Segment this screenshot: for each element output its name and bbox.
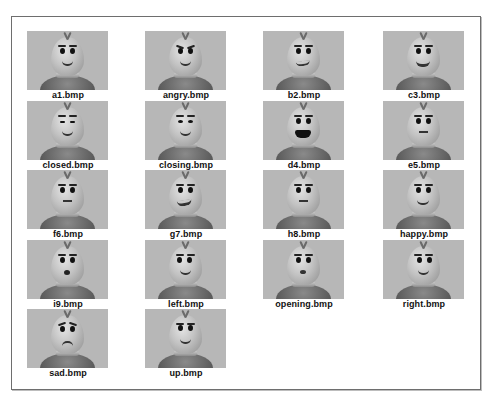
mouth <box>295 130 311 138</box>
thumbnail-item[interactable]: right.bmp <box>383 240 465 310</box>
left-eye <box>296 118 301 124</box>
right-eye <box>70 326 75 332</box>
right-eye <box>426 187 431 193</box>
hair-tuft-icon <box>299 31 308 40</box>
right-eye <box>188 187 193 193</box>
character-head <box>407 37 440 76</box>
thumbnail-filename: h8.bmp <box>253 229 355 240</box>
character-image-thumbnail[interactable] <box>27 101 108 160</box>
character-head <box>169 107 202 146</box>
character-image-thumbnail[interactable] <box>263 240 344 299</box>
hair-tuft-icon <box>299 101 308 110</box>
character-head <box>407 246 440 285</box>
right-eye <box>426 48 431 54</box>
character-head <box>51 176 84 215</box>
character-image-thumbnail[interactable] <box>263 31 344 90</box>
thumbnail-item[interactable]: f6.bmp <box>27 170 109 240</box>
thumbnail-item[interactable]: angry.bmp <box>145 31 227 101</box>
thumbnail-filename: right.bmp <box>373 299 475 310</box>
left-eye <box>416 187 421 193</box>
thumbnail-item[interactable]: i9.bmp <box>27 240 109 310</box>
left-eye <box>178 187 183 193</box>
character-head <box>51 246 84 285</box>
left-eyebrow <box>294 254 302 256</box>
thumbnail-item[interactable]: opening.bmp <box>263 240 345 310</box>
right-eyebrow <box>425 184 433 186</box>
character-image-thumbnail[interactable] <box>263 170 344 229</box>
thumbnail-item[interactable]: happy.bmp <box>383 170 465 240</box>
thumbnail-filename: a1.bmp <box>17 90 119 101</box>
left-eyebrow <box>176 184 184 186</box>
character-head <box>51 37 84 76</box>
thumbnail-item[interactable]: d4.bmp <box>263 101 345 171</box>
character-image-thumbnail[interactable] <box>145 31 226 90</box>
right-eye <box>306 257 311 263</box>
left-eyebrow <box>58 254 66 256</box>
thumbnail-item[interactable]: closing.bmp <box>145 101 227 171</box>
left-eyebrow <box>414 254 422 256</box>
mouth <box>64 270 70 275</box>
right-eye <box>306 48 311 54</box>
character-image-thumbnail[interactable] <box>145 309 226 368</box>
character-image-thumbnail[interactable] <box>145 240 226 299</box>
character-image-thumbnail[interactable] <box>145 101 226 160</box>
left-eyebrow <box>58 115 66 117</box>
right-eyebrow <box>425 45 433 47</box>
right-eyebrow <box>305 115 313 117</box>
thumbnail-item[interactable]: sad.bmp <box>27 309 109 379</box>
right-eyebrow <box>69 45 77 47</box>
left-eye <box>60 48 65 54</box>
character-image-thumbnail[interactable] <box>27 31 108 90</box>
left-eye <box>60 257 65 263</box>
thumbnail-item[interactable]: up.bmp <box>145 309 227 379</box>
thumbnail-item[interactable]: h8.bmp <box>263 170 345 240</box>
thumbnail-filename: up.bmp <box>135 368 237 379</box>
hair-tuft-icon <box>419 101 428 110</box>
right-eye <box>188 48 193 54</box>
mouth <box>63 200 72 202</box>
character-image-thumbnail[interactable] <box>383 170 464 229</box>
right-eye <box>70 187 75 193</box>
right-eye <box>306 187 311 193</box>
left-eyebrow <box>176 254 184 256</box>
left-eyebrow <box>414 184 422 186</box>
character-image-thumbnail[interactable] <box>27 170 108 229</box>
thumbnail-item[interactable]: g7.bmp <box>145 170 227 240</box>
left-eye <box>296 187 301 193</box>
hair-tuft-icon <box>299 240 308 249</box>
character-image-thumbnail[interactable] <box>27 240 108 299</box>
right-eye <box>188 325 193 331</box>
thumbnail-item[interactable]: b2.bmp <box>263 31 345 101</box>
character-image-thumbnail[interactable] <box>383 240 464 299</box>
thumbnail-item[interactable]: left.bmp <box>145 240 227 310</box>
character-image-thumbnail[interactable] <box>263 101 344 160</box>
left-eyebrow <box>414 45 422 47</box>
thumbnail-filename: opening.bmp <box>253 299 355 310</box>
thumbnail-item[interactable]: closed.bmp <box>27 101 109 171</box>
right-eyebrow <box>187 115 195 117</box>
thumbnail-item[interactable]: c3.bmp <box>383 31 465 101</box>
character-head <box>51 107 84 146</box>
right-eyebrow <box>69 184 77 186</box>
character-head <box>287 37 320 76</box>
hair-tuft-icon <box>63 170 72 179</box>
left-eye <box>296 48 301 54</box>
character-image-thumbnail[interactable] <box>27 309 108 368</box>
hair-tuft-icon <box>63 31 72 40</box>
right-eye <box>70 121 75 123</box>
hair-tuft-icon <box>181 31 190 40</box>
character-image-thumbnail[interactable] <box>383 31 464 90</box>
mouth <box>300 270 306 274</box>
left-eyebrow <box>58 184 66 186</box>
character-image-thumbnail[interactable] <box>145 170 226 229</box>
right-eyebrow <box>187 254 195 256</box>
hair-tuft-icon <box>63 240 72 249</box>
thumbnail-item[interactable]: e5.bmp <box>383 101 465 171</box>
character-head <box>407 107 440 146</box>
right-eye <box>70 257 75 263</box>
character-head <box>287 246 320 285</box>
thumbnail-item[interactable]: a1.bmp <box>27 31 109 101</box>
left-eye <box>178 325 183 331</box>
thumbnail-filename: g7.bmp <box>135 229 237 240</box>
character-image-thumbnail[interactable] <box>383 101 464 160</box>
